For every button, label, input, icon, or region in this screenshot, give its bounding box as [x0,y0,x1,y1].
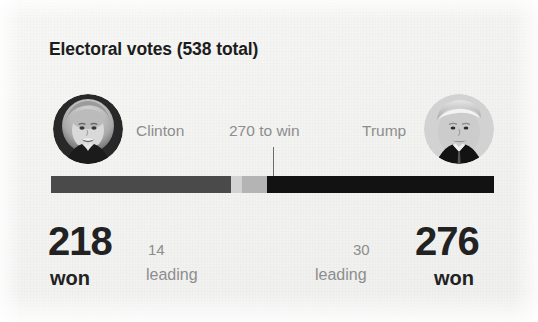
threshold-tick-line [273,147,274,177]
trump-name-label: Trump [362,122,406,140]
clinton-won-label: won [50,268,90,288]
bar-segment-trump-leading [242,176,267,193]
electoral-votes-graphic: Electoral votes (538 total) [0,0,538,322]
clinton-portrait-icon [53,94,123,164]
clinton-won-count: 218 [48,221,112,261]
page-title: Electoral votes (538 total) [49,39,258,60]
threshold-label: 270 to win [229,122,300,140]
trump-won-label: won [434,268,474,288]
trump-won-count: 276 [415,221,479,261]
electoral-vote-bar [51,176,494,193]
clinton-leading-count: 14 [148,242,165,257]
bar-segment-clinton-won [51,176,231,193]
bar-segment-clinton-leading [231,176,243,193]
bar-segment-trump-won [267,176,494,193]
clinton-name-label: Clinton [136,122,184,140]
trump-leading-label: leading [315,267,367,283]
trump-portrait-icon [424,94,494,164]
clinton-leading-label: leading [146,267,198,283]
trump-leading-count: 30 [353,242,370,257]
